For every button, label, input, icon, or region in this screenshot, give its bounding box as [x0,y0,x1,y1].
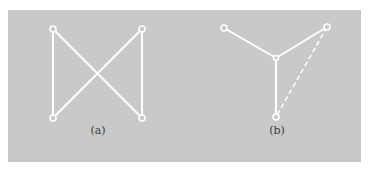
subfigure-label-a: (a) [90,124,105,137]
subfigure-label-b: (b) [269,124,285,137]
edge-b-topleft-center [224,28,276,58]
edge-b-topright-center [276,27,327,58]
node-b-top-right [324,24,330,30]
node-a-top-right [139,26,145,32]
node-a-top-left [50,26,56,32]
edge-b-dashed-topright-bottom [276,27,327,117]
subfigure-a [53,29,142,118]
node-b-bottom [273,114,279,120]
graph-figure: (a) (b) [0,0,369,169]
node-b-center [274,56,279,61]
node-a-bottom-left [50,115,56,121]
subfigure-b [224,27,327,117]
node-b-top-left [221,25,227,31]
node-a-bottom-right [139,115,145,121]
